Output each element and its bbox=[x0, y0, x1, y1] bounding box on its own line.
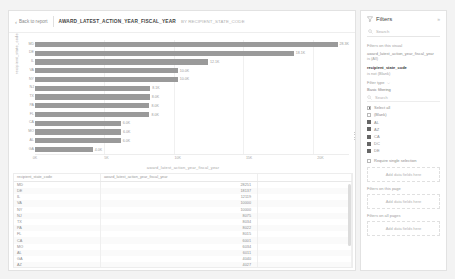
require-single-selection-row[interactable]: Require single selection bbox=[367, 158, 440, 163]
chart-bar[interactable] bbox=[35, 68, 178, 73]
data-table-visual[interactable]: recipient_state_code award_latest_action… bbox=[13, 173, 353, 268]
chart-bar[interactable] bbox=[35, 94, 150, 99]
chart-x-axis-title: award_latest_action_year_fiscal_year bbox=[13, 165, 353, 170]
filter-checkbox-row[interactable]: DC bbox=[367, 141, 440, 146]
filters-section-visual: Filters on this visual bbox=[367, 43, 440, 48]
chart-bar[interactable] bbox=[35, 138, 121, 143]
table-row[interactable]: MD28251 bbox=[14, 181, 352, 188]
filters-header: Filters » bbox=[367, 16, 440, 22]
filter-checkbox-row[interactable]: AL bbox=[367, 120, 440, 125]
data-table: recipient_state_code award_latest_action… bbox=[14, 174, 352, 268]
filter-list-search-placeholder: Search bbox=[375, 95, 388, 100]
chart-category-label: MO bbox=[24, 130, 34, 134]
chart-x-tick-label: 15K bbox=[246, 156, 252, 160]
chart-bar-row[interactable]: GA4.0K bbox=[35, 145, 349, 154]
search-icon bbox=[368, 29, 373, 34]
filter-card-state[interactable]: recipient_state_code is not (Blank) Filt… bbox=[367, 65, 440, 163]
chart-bar[interactable] bbox=[35, 121, 121, 126]
chart-bar-row[interactable]: DE18.1K bbox=[35, 49, 349, 58]
chart-bar[interactable] bbox=[35, 147, 93, 152]
filter-checkbox-row[interactable]: DE bbox=[367, 148, 440, 153]
chart-category-label: FL bbox=[24, 113, 34, 117]
chart-data-label: 18.1K bbox=[296, 51, 305, 55]
filter-checkbox-row[interactable]: Select all bbox=[367, 105, 440, 110]
chart-x-axis: 0K5K10K15K20K bbox=[35, 154, 349, 162]
chart-bar[interactable] bbox=[35, 129, 121, 134]
chart-data-label: 10.0K bbox=[180, 77, 189, 81]
search-icon bbox=[367, 95, 372, 100]
table-scrollbar[interactable] bbox=[348, 184, 351, 246]
chart-bar-row[interactable]: TX8.0K bbox=[35, 93, 349, 102]
chart-bar-row[interactable]: MD28.3K bbox=[35, 40, 349, 49]
page-subtitle: BY RECIPIENT_STATE_CODE bbox=[181, 19, 245, 24]
filter-type-row[interactable]: Filter type ⌵ bbox=[367, 80, 440, 85]
chart-category-label: TX bbox=[24, 95, 34, 99]
chart-category-label: GA bbox=[24, 148, 34, 152]
filters-title: Filters bbox=[376, 16, 392, 22]
chart-data-label: 8.0K bbox=[151, 113, 158, 117]
checkbox-icon bbox=[367, 113, 371, 117]
chart-data-label: 8.0K bbox=[152, 95, 159, 99]
table-cell-year: 28251 bbox=[101, 181, 258, 188]
filter-state-state: is not (Blank) bbox=[367, 71, 440, 76]
filter-checkbox-label: DE bbox=[374, 148, 380, 153]
table-row[interactable]: AZ4027 bbox=[14, 262, 352, 268]
filter-checkbox-row[interactable]: CA bbox=[367, 134, 440, 139]
chart-bar[interactable] bbox=[35, 51, 294, 56]
back-to-report-label: Back to report bbox=[19, 19, 48, 24]
chart-bar-row[interactable]: CA6.0K bbox=[35, 119, 349, 128]
bar-chart-visual[interactable]: recipient_state_code MD28.3KDE18.1KIL12.… bbox=[13, 36, 353, 171]
chart-bar-row[interactable]: MO6.0K bbox=[35, 128, 349, 137]
chart-bar[interactable] bbox=[35, 59, 208, 64]
chart-bar-row[interactable]: NY10.0K bbox=[35, 75, 349, 84]
chart-data-label: 6.0K bbox=[123, 139, 130, 143]
chart-category-label: NJ bbox=[24, 86, 34, 90]
funnel-icon bbox=[367, 16, 373, 22]
chart-bar[interactable] bbox=[35, 77, 178, 82]
column-header-year[interactable]: award_latest_action_year_fiscal_year bbox=[101, 174, 258, 181]
dropzone-page[interactable]: Add data fields here bbox=[367, 194, 440, 209]
table-cell-year: 4027 bbox=[101, 262, 258, 268]
table-cell-state: MD bbox=[14, 181, 101, 188]
chart-x-tick-label: 5K bbox=[104, 156, 108, 160]
chart-bar-row[interactable]: IL12.1K bbox=[35, 58, 349, 67]
report-canvas: ‹ Back to report AWARD_LATEST_ACTION_YEA… bbox=[8, 10, 356, 271]
column-header-state[interactable]: recipient_state_code bbox=[14, 174, 101, 181]
filter-checkbox-row[interactable]: AZ bbox=[367, 127, 440, 132]
chart-bar-row[interactable]: AL6.0K bbox=[35, 136, 349, 145]
chart-bar-row[interactable]: PA8.0K bbox=[35, 101, 349, 110]
chart-category-label: CA bbox=[24, 121, 34, 125]
chart-x-tick-label: 10K bbox=[175, 156, 181, 160]
chart-bar[interactable] bbox=[35, 86, 150, 91]
chart-y-axis-title: recipient_state_code bbox=[14, 33, 19, 74]
checkbox-icon bbox=[367, 135, 371, 139]
double-chevron-icon[interactable]: » bbox=[437, 16, 440, 22]
checkbox-icon bbox=[367, 127, 371, 131]
chart-bar-row[interactable]: NJ8.1K bbox=[35, 84, 349, 93]
chart-category-label: MD bbox=[24, 43, 34, 47]
dropzone-visual[interactable]: Add data fields here bbox=[367, 167, 440, 182]
filter-card-year[interactable]: award_latest_action_year_fiscal_year is … bbox=[367, 51, 440, 61]
chart-bar[interactable] bbox=[35, 42, 338, 47]
filter-type-value: Basic filtering bbox=[367, 87, 440, 92]
pane-resize-handle[interactable] bbox=[354, 130, 357, 148]
chart-bar-row[interactable]: FL8.0K bbox=[35, 110, 349, 119]
table-cell-spacer bbox=[258, 262, 352, 268]
chart-bar-row[interactable]: VA10.0K bbox=[35, 66, 349, 75]
filters-pane: Filters » Search Filters on this visual … bbox=[360, 10, 447, 271]
back-to-report-button[interactable]: ‹ Back to report bbox=[15, 19, 48, 25]
chart-bar[interactable] bbox=[35, 103, 149, 108]
chart-data-label: 28.3K bbox=[340, 42, 349, 46]
chart-data-label: 4.0K bbox=[95, 148, 102, 152]
filter-list-search[interactable]: Search bbox=[367, 95, 440, 103]
report-window: ‹ Back to report AWARD_LATEST_ACTION_YEA… bbox=[0, 0, 455, 279]
filters-search-box[interactable]: Search bbox=[367, 27, 440, 37]
filters-search-placeholder: Search bbox=[376, 29, 389, 34]
chart-bar[interactable] bbox=[35, 112, 149, 117]
dropzone-all-pages[interactable]: Add data fields here bbox=[367, 221, 440, 236]
filter-state-year: is (All) bbox=[367, 56, 440, 61]
filter-checkbox-row[interactable]: (Blank) bbox=[367, 112, 440, 117]
report-header: ‹ Back to report AWARD_LATEST_ACTION_YEA… bbox=[9, 11, 355, 33]
checkbox-icon bbox=[367, 159, 371, 163]
checkbox-icon bbox=[367, 142, 371, 146]
